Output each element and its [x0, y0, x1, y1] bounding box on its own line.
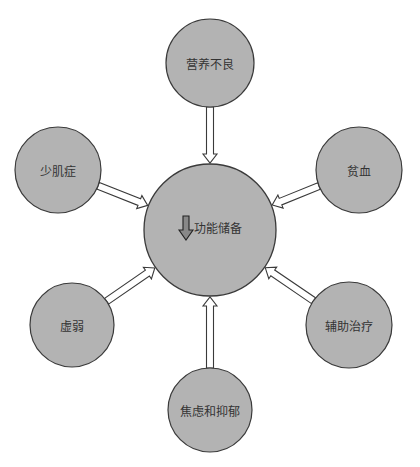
arrow-sarcopenia-to-center	[97, 183, 148, 209]
node-label-malnutrition: 营养不良	[186, 55, 234, 72]
arrow-malnutrition-to-center	[203, 107, 217, 163]
node-label-anemia: 贫血	[347, 162, 371, 179]
arrow-frailty-to-center	[105, 267, 155, 304]
node-label-anxiety-depression: 焦虑和抑郁	[180, 402, 240, 419]
arrow-anemia-to-center	[272, 183, 320, 208]
node-label-frailty: 虚弱	[60, 317, 84, 334]
arrow-adjuvant-therapy-to-center	[265, 267, 315, 304]
node-label-sarcopenia: 少肌症	[40, 162, 76, 179]
center-label: 功能储备	[194, 219, 242, 236]
node-label-adjuvant-therapy: 辅助治疗	[325, 317, 373, 334]
arrow-anxiety-depression-to-center	[203, 297, 217, 368]
